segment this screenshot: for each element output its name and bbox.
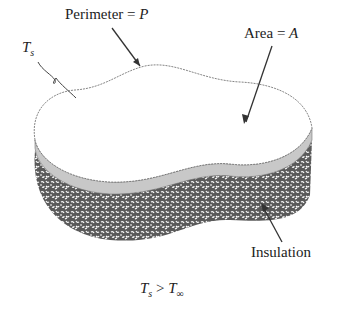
surface-temp-label: Ts [22, 39, 34, 58]
perimeter-label: Perimeter = P [65, 6, 148, 22]
area-label: Area = A [244, 25, 299, 41]
fin-diagram: Perimeter = P Area = A Ts Insulation Ts … [0, 0, 350, 317]
insulation-label: Insulation [251, 244, 311, 260]
ts-leader-squiggle [38, 62, 76, 98]
condition-label: Ts > T∞ [140, 280, 184, 299]
perimeter-arrowhead-icon [133, 58, 140, 66]
